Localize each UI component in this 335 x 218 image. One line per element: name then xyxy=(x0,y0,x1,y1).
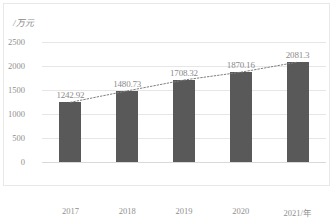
y-axis-tick-label: 1500 xyxy=(0,85,25,95)
bar-value-label: 1480.73 xyxy=(113,79,141,89)
y-axis-unit-label: /万元 xyxy=(13,16,34,29)
plot-area: 25002000150010005000 1242.921480.731708.… xyxy=(42,42,326,162)
bar xyxy=(116,91,138,162)
y-axis-tick-label: 2000 xyxy=(0,61,25,71)
bar-value-label: 1870.16 xyxy=(227,60,255,70)
bar xyxy=(287,62,309,162)
bar-value-label: 2081.3 xyxy=(286,50,310,60)
bar xyxy=(173,80,195,162)
y-axis-tick-label: 1000 xyxy=(0,109,25,119)
gridline xyxy=(42,42,326,43)
y-axis-tick-label: 500 xyxy=(0,133,25,143)
chart-container: /万元 25002000150010005000 1242.921480.731… xyxy=(3,3,330,186)
gridline xyxy=(42,66,326,67)
gridline xyxy=(42,162,326,163)
bar-value-label: 1708.32 xyxy=(170,68,198,78)
bar xyxy=(230,72,252,162)
y-axis-tick-label: 0 xyxy=(0,157,25,167)
bar xyxy=(59,102,81,162)
bar-value-label: 1242.92 xyxy=(56,90,84,100)
y-axis-tick-label: 2500 xyxy=(0,37,25,47)
